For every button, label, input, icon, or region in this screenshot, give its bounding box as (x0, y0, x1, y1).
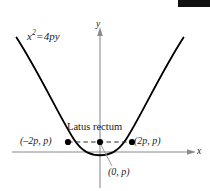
x-axis-arrowhead (187, 149, 196, 155)
point-left-label: (–2p, p) (20, 136, 52, 146)
equation-right-side: 4py (44, 30, 60, 42)
parabola-figure: x2=4py y x Latus rectum (–2p, p) (2p, p)… (0, 0, 210, 191)
latus-rectum-label: Latus rectum (67, 122, 122, 133)
x-axis-label: x (197, 147, 201, 157)
corner-mark (178, 0, 210, 7)
y-axis (97, 27, 103, 188)
curve-equation-label: x2=4py (27, 31, 60, 42)
point-right-label: (2p, p) (134, 136, 161, 146)
focus-point-label: (0, p) (108, 167, 130, 177)
point-marker-focus (97, 139, 103, 145)
point-marker-left (65, 139, 71, 145)
equation-operator: = (36, 30, 44, 42)
y-axis-label: y (96, 20, 100, 30)
